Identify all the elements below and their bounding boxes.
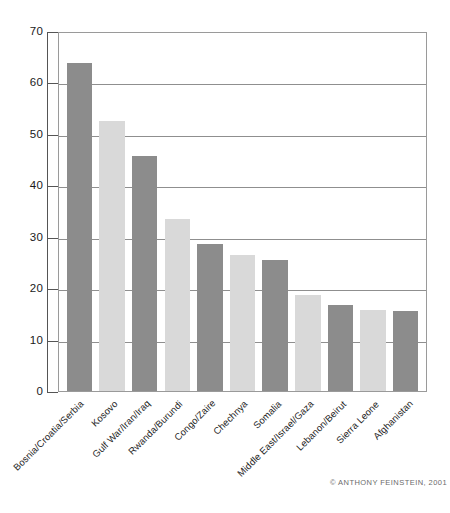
bar-slot	[259, 33, 292, 391]
x-axis-label: Bosnia/Croatia/Serbia	[11, 398, 86, 473]
bar-slot	[389, 33, 422, 391]
bar	[295, 295, 320, 391]
y-tick-20	[47, 289, 58, 290]
plot-area	[58, 32, 427, 392]
y-tick-label-box-60: 60	[0, 77, 43, 89]
copyright-notice: © ANTHONY FEINSTEIN, 2001	[330, 478, 447, 487]
y-tick-label-10: 10	[0, 335, 43, 347]
bar	[262, 260, 287, 391]
bar-slot	[128, 33, 161, 391]
x-axis-label: Gulf War/Iran/Iraq	[90, 398, 152, 460]
bar-slot	[226, 33, 259, 391]
y-tick-label-30: 30	[0, 232, 43, 244]
y-tick-70	[47, 32, 58, 33]
bar	[197, 244, 222, 391]
x-axis-label: Somalia	[251, 398, 284, 431]
y-tick-label-box-40: 40	[0, 180, 43, 192]
y-tick-40	[47, 186, 58, 187]
y-tick-label-40: 40	[0, 180, 43, 192]
y-tick-label-box-70: 70	[0, 26, 43, 38]
y-tick-label-box-50: 50	[0, 129, 43, 141]
bar-slot	[96, 33, 129, 391]
y-tick-label-box-0: 0	[0, 386, 43, 398]
y-tick-label-60: 60	[0, 77, 43, 89]
bar	[230, 255, 255, 391]
bar	[393, 311, 418, 391]
y-tick-10	[47, 341, 58, 342]
bar	[328, 305, 353, 391]
y-tick-label-box-30: 30	[0, 232, 43, 244]
bar	[67, 63, 92, 391]
bar-slot	[324, 33, 357, 391]
x-axis-label: Kosovo	[89, 398, 120, 429]
bar	[360, 310, 385, 391]
y-tick-50	[47, 135, 58, 136]
y-tick-0	[47, 392, 58, 393]
bar-slot	[194, 33, 227, 391]
bar-slot	[291, 33, 324, 391]
y-tick-label-20: 20	[0, 283, 43, 295]
bar-chart: 706050403020100 Bosnia/Croatia/SerbiaKos…	[0, 0, 450, 513]
y-tick-label-box-10: 10	[0, 335, 43, 347]
bar-slot	[357, 33, 390, 391]
y-tick-30	[47, 238, 58, 239]
y-tick-label-0: 0	[0, 386, 43, 398]
bar-slot	[161, 33, 194, 391]
bars-group	[59, 33, 426, 391]
y-tick-60	[47, 83, 58, 84]
y-tick-label-70: 70	[0, 26, 43, 38]
bar	[132, 156, 157, 391]
y-tick-label-50: 50	[0, 129, 43, 141]
bar	[99, 121, 124, 392]
y-axis-line	[47, 32, 48, 393]
y-tick-label-box-20: 20	[0, 283, 43, 295]
bar	[165, 219, 190, 391]
bar-slot	[63, 33, 96, 391]
